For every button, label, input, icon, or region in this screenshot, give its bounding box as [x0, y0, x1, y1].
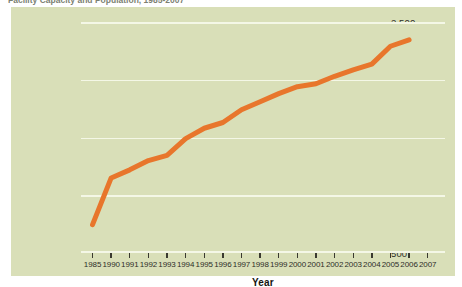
- x-tick-label: 2003: [345, 260, 362, 269]
- series-line-inmates: [81, 22, 445, 253]
- x-tick-mark: [92, 253, 93, 258]
- x-tick-mark: [315, 253, 316, 258]
- x-tick-mark: [427, 253, 428, 258]
- x-tick-mark: [129, 253, 130, 258]
- x-tick-label: 2004: [363, 260, 380, 269]
- x-tick-label: 1992: [140, 260, 157, 269]
- x-tick-mark: [353, 253, 354, 258]
- x-tick-label: 1985: [84, 260, 101, 269]
- x-tick-mark: [297, 253, 298, 258]
- x-axis-title: Year: [81, 277, 445, 287]
- x-tick-label: 2007: [419, 260, 436, 269]
- x-tick-mark: [259, 253, 260, 258]
- x-tick-mark: [110, 253, 111, 258]
- x-tick-mark: [148, 253, 149, 258]
- figure-caption: Facility Capacity and Population, 1985-2…: [8, 0, 184, 5]
- x-tick-mark: [334, 253, 335, 258]
- x-tick-label: 1994: [177, 260, 194, 269]
- x-tick-mark: [408, 253, 409, 258]
- plot-area: [81, 22, 445, 253]
- x-tick-label: 1995: [196, 260, 213, 269]
- x-tick-label: 2000: [289, 260, 306, 269]
- caption-strip: Facility Capacity and Population, 1985-2…: [0, 0, 462, 7]
- x-tick-mark: [241, 253, 242, 258]
- x-tick-mark: [278, 253, 279, 258]
- x-tick-label: 1997: [233, 260, 250, 269]
- x-tick-label: 1996: [214, 260, 231, 269]
- x-tick-label: 1998: [251, 260, 268, 269]
- x-axis: 1985199019911992199319941995199619971998…: [81, 253, 445, 287]
- x-tick-mark: [371, 253, 372, 258]
- x-tick-mark: [204, 253, 205, 258]
- x-tick-label: 1999: [270, 260, 287, 269]
- x-tick-label: 2002: [326, 260, 343, 269]
- x-tick-mark: [185, 253, 186, 258]
- x-tick-mark: [166, 253, 167, 258]
- x-tick-label: 2001: [307, 260, 324, 269]
- x-tick-label: 1993: [158, 260, 175, 269]
- x-tick-mark: [222, 253, 223, 258]
- x-tick-label: 2006: [400, 260, 417, 269]
- chart-figure: Facility Capacity and Population, 1985-2…: [0, 0, 462, 287]
- x-tick-label: 1991: [121, 260, 138, 269]
- chart-panel: Total Inmates in Custody (x1,000) 2,500 …: [11, 7, 455, 276]
- x-tick-label: 2005: [382, 260, 399, 269]
- x-tick-mark: [390, 253, 391, 258]
- x-tick-label: 1990: [102, 260, 119, 269]
